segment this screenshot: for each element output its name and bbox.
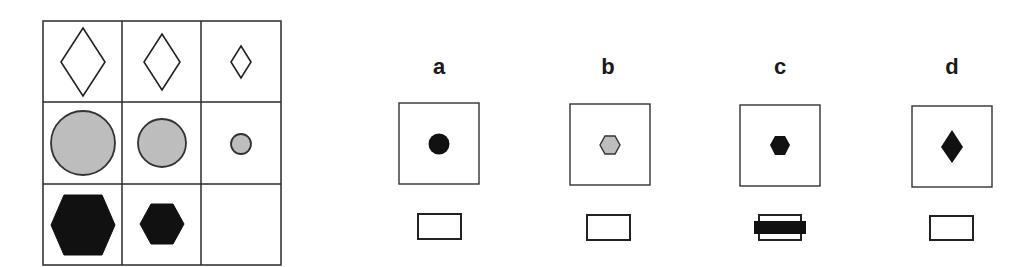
option-b-label: b xyxy=(588,56,628,78)
option-a-label: a xyxy=(419,56,459,78)
option-c-answer-box-marked[interactable] xyxy=(754,215,806,240)
hexagon-large-icon xyxy=(51,195,115,255)
option-b-hexagon-icon xyxy=(600,136,620,154)
option-b-answer-box[interactable] xyxy=(587,215,630,240)
circle-row xyxy=(51,111,251,175)
circle-small-icon xyxy=(231,134,251,154)
diamond-row xyxy=(61,28,251,96)
option-b[interactable] xyxy=(570,104,650,240)
hexagon-medium-icon xyxy=(140,204,184,244)
diamond-medium-icon xyxy=(144,34,180,90)
option-a[interactable] xyxy=(399,103,479,239)
hexagon-row xyxy=(51,195,184,255)
option-c-label: c xyxy=(760,56,800,78)
diamond-small-icon xyxy=(231,46,251,78)
puzzle-svg xyxy=(0,0,1024,267)
option-d[interactable] xyxy=(912,106,992,240)
diamond-large-icon xyxy=(61,28,105,96)
option-a-answer-box[interactable] xyxy=(418,214,461,239)
circle-large-icon xyxy=(51,111,115,175)
puzzle-figure: a b c d xyxy=(0,0,1024,267)
option-d-answer-box[interactable] xyxy=(930,216,973,240)
option-a-circle-icon xyxy=(429,134,450,155)
option-d-label: d xyxy=(932,56,972,78)
circle-medium-icon xyxy=(138,119,186,167)
option-c[interactable] xyxy=(740,105,820,240)
